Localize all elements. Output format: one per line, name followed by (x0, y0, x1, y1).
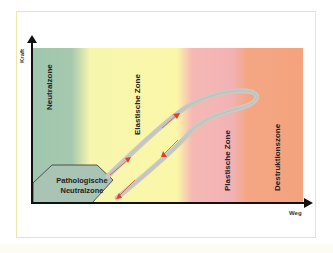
zone-label-neutral: Neutralzone (45, 64, 54, 110)
x-axis (31, 202, 306, 204)
pathological-zone-line1: Pathologische (47, 176, 117, 186)
load-deformation-curve (0, 0, 333, 253)
y-axis-label: Kraft (19, 49, 25, 63)
zone-label-elastic: Elastische Zone (133, 74, 142, 135)
y-axis-arrow-icon (27, 35, 37, 43)
zone-label-plastic: Plastische Zone (223, 130, 232, 191)
zone-label-destruction: Destruktionszone (273, 124, 282, 191)
pathological-zone-label: Pathologische Neutralzone (47, 176, 117, 196)
x-axis-arrow-icon (304, 198, 313, 208)
pathological-zone-line2: Neutralzone (47, 186, 117, 196)
y-axis (31, 41, 33, 204)
x-axis-label: Weg (289, 210, 302, 216)
